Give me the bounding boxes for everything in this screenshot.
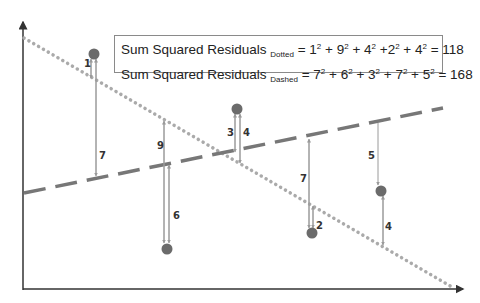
residual-label: 1: [84, 58, 91, 69]
data-point-2: [162, 244, 173, 255]
dashed-fit-line: [24, 108, 443, 193]
residual-arrows-point-2: [164, 121, 169, 243]
residual-arrows-point-3: [235, 114, 240, 163]
residual-arrows-point-4: [309, 139, 313, 228]
residual-label: 9: [157, 140, 164, 151]
residual-label: 6: [173, 210, 180, 221]
residual-label: 7: [99, 150, 106, 161]
dashed-sum-line: Sum Squared Residuals Dashed = 72 + 62 +…: [121, 63, 442, 88]
data-point-3: [232, 104, 243, 115]
residual-label: 4: [385, 221, 392, 232]
sum-squared-residuals-box: Sum Squared Residuals Dotted = 12 + 92 +…: [114, 35, 443, 73]
data-point-5: [376, 186, 387, 197]
residual-label: 5: [368, 150, 375, 161]
residual-label: 4: [243, 127, 250, 138]
residual-label: 2: [316, 220, 323, 231]
residual-arrows-point-5: [378, 123, 383, 245]
residual-label: 3: [227, 127, 234, 138]
dotted-sum-line: Sum Squared Residuals Dotted = 12 + 92 +…: [121, 38, 442, 63]
dashed-total: 168: [450, 67, 473, 82]
dotted-total: 118: [442, 42, 464, 57]
residual-label: 7: [300, 173, 307, 184]
